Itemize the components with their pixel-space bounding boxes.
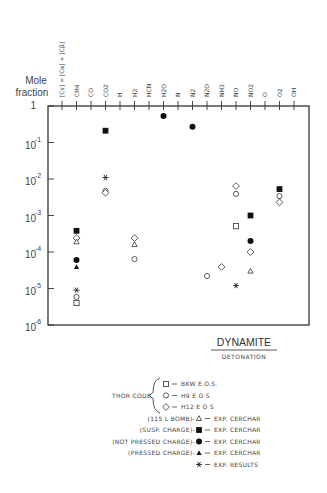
x-tick-label-co: CO xyxy=(87,88,94,97)
chart-title: DYNAMITE xyxy=(217,336,271,348)
point-square-filled-co2 xyxy=(103,128,109,134)
data-points xyxy=(73,113,283,306)
legend-marker-circle-open xyxy=(163,393,168,398)
legend-marker-asterisk xyxy=(196,462,202,467)
point-asterisk-co2 xyxy=(103,175,109,180)
x-tick-label-no: NO xyxy=(232,88,239,97)
x-tick-label-n: N xyxy=(174,93,181,98)
x-tick-label-h2: H2 xyxy=(131,88,138,97)
point-triangle-open-h2 xyxy=(132,242,137,247)
legend-entry-prefix: (PRESSED CHARGE)- xyxy=(128,449,195,456)
point-diamond-open-nh3 xyxy=(218,264,225,271)
point-asterisk-ch4 xyxy=(74,288,80,293)
y-tick-exponent: -6 xyxy=(35,318,41,325)
x-tick-label-oh: OH xyxy=(290,88,297,97)
legend-entry-text: H12 E O S xyxy=(181,403,214,410)
point-circle-filled-ch4 xyxy=(74,257,80,263)
point-asterisk-no xyxy=(233,283,239,288)
point-circle-open-ch4 xyxy=(74,294,79,299)
legend-entry-prefix: (SUSP. CHARGE)- xyxy=(140,426,195,433)
legend-entry-prefix: (115 L BOMB)- xyxy=(148,415,195,422)
y-axis-label-line2: fraction xyxy=(16,87,49,98)
point-triangle-open-no2 xyxy=(248,268,253,273)
legend: THOR CODEBKW E.O.S.H9 E O SH12 E O S(115… xyxy=(111,378,261,468)
legend-marker-triangle-filled xyxy=(196,450,201,455)
x-tick-label-h2o: H2O xyxy=(160,84,167,97)
chart-subtitle: DETONATION xyxy=(222,353,267,360)
legend-marker-circle-filled xyxy=(196,439,202,445)
x-tick-label-co2: CO2 xyxy=(102,84,109,97)
point-triangle-filled-ch4 xyxy=(74,264,79,269)
legend-entry-text: EXP. CERCHAR xyxy=(214,426,261,433)
legend-marker-square-filled xyxy=(196,427,202,433)
x-tick-label-cs-c-c: [Cs] = [Cα] + [Cβ] xyxy=(58,42,66,97)
y-tick-exponent: -2 xyxy=(35,172,41,179)
plot-frame xyxy=(48,106,309,325)
y-tick-exponent: -4 xyxy=(35,245,41,252)
x-tick-label-hcn: HCN xyxy=(145,84,152,97)
x-tick-label-n2: N2 xyxy=(189,89,196,97)
x-ticks: [Cs] = [Cα] + [Cβ]CH4COCO2HH2HCNH2ONN2N2… xyxy=(58,42,297,110)
point-square-filled-no2 xyxy=(248,213,254,219)
point-diamond-open-no xyxy=(233,183,240,190)
y-tick-label: 1 xyxy=(30,100,36,111)
x-tick-label-o2: O2 xyxy=(276,88,283,97)
point-diamond-open-o2 xyxy=(276,199,283,206)
point-square-filled-ch4 xyxy=(74,228,80,234)
point-circle-open-no xyxy=(233,191,238,196)
y-tick-exponent: -5 xyxy=(35,282,41,289)
x-tick-label-n2o: N2O xyxy=(203,84,210,97)
legend-group-label: THOR CODE xyxy=(111,392,151,399)
x-tick-label-ch4: CH4 xyxy=(73,84,80,97)
point-diamond-open-no2 xyxy=(247,249,254,256)
x-tick-label-nh3: NH3 xyxy=(218,84,225,97)
point-square-open-no xyxy=(233,224,238,229)
point-square-filled-o2 xyxy=(277,186,283,192)
x-tick-label-o: O xyxy=(261,92,268,97)
y-axis-label-line1: Mole xyxy=(25,75,47,86)
legend-entry-text: EXP. RESULTS xyxy=(214,461,258,468)
legend-entry-text: EXP. CERCHAR xyxy=(214,415,261,422)
x-tick-label-h: H xyxy=(116,92,123,97)
legend-entry-prefix: (NOT PRESSED CHARGE)- xyxy=(112,438,195,445)
y-ticks: 110-110-210-310-410-510-6 xyxy=(25,100,54,333)
y-tick-exponent: -1 xyxy=(35,136,41,143)
point-circle-filled-n2 xyxy=(190,124,196,130)
point-circle-open-o2 xyxy=(277,194,282,199)
chart: Mole fraction [Cs] = [Cα] + [Cβ]CH4COCO2… xyxy=(0,0,327,493)
legend-entry-text: BKW E.O.S. xyxy=(181,380,217,387)
y-tick-exponent: -3 xyxy=(35,209,41,216)
point-circle-filled-h2o xyxy=(161,113,167,119)
legend-entry-text: H9 E O S xyxy=(181,392,210,399)
point-circle-open-n2o xyxy=(204,273,209,278)
legend-marker-square-open xyxy=(163,381,168,386)
legend-marker-triangle-open xyxy=(196,416,201,421)
legend-entry-text: EXP. CERCHAR xyxy=(214,438,261,445)
legend-entry-text: EXP. CERCHAR xyxy=(214,449,261,456)
point-diamond-open-h2 xyxy=(131,235,138,242)
x-tick-label-no2: NO2 xyxy=(247,84,254,97)
point-square-open-ch4 xyxy=(74,300,79,305)
point-circle-filled-no2 xyxy=(248,238,254,244)
point-circle-open-h2 xyxy=(132,256,137,261)
legend-marker-diamond-open xyxy=(163,404,170,411)
